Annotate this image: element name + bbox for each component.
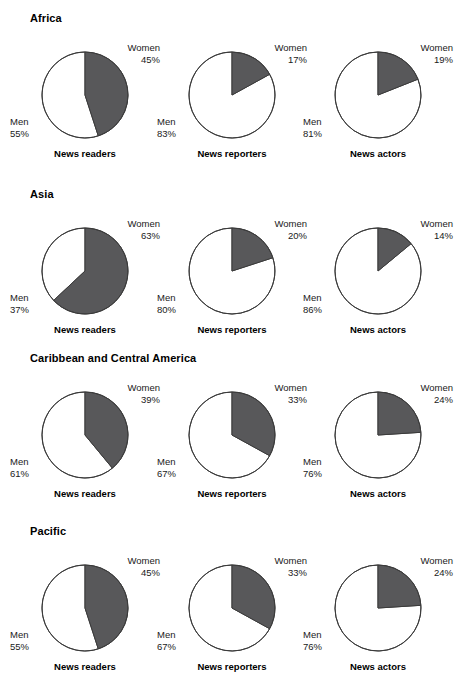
men-label-percent: 76% [303,641,343,653]
men-label-name: Men [157,629,175,640]
men-label: Men81% [303,116,343,139]
pie-caption: News reporters [153,148,311,159]
women-label-percent: 14% [395,230,453,242]
pie-caption: News actors [299,324,457,335]
men-label: Men55% [10,629,50,652]
women-label: Women45% [102,555,160,578]
region-title: Pacific [30,525,66,537]
men-label: Men55% [10,116,50,139]
men-label: Men76% [303,456,343,479]
pie-chart-cell: Women39%Men61%News readers [6,368,164,518]
women-label-percent: 24% [395,567,453,579]
pie-caption: News reporters [153,488,311,499]
men-label: Men76% [303,629,343,652]
men-label-name: Men [303,456,321,467]
pie-chart-cell: Women45%Men55%News readers [6,541,164,691]
pie-caption: News readers [6,148,164,159]
pie-caption: News readers [6,324,164,335]
men-label: Men61% [10,456,50,479]
men-label: Men80% [157,292,197,315]
pie-chart-cell: Women24%Men76%News actors [299,541,457,691]
men-label: Men37% [10,292,50,315]
pie-caption: News actors [299,661,457,672]
men-label-name: Men [10,292,28,303]
men-label-percent: 55% [10,641,50,653]
men-label-percent: 80% [157,304,197,316]
region-group: PacificWomen45%Men55%News readersWomen33… [0,525,473,695]
pie-chart-cell: Women63%Men37%News readers [6,204,164,354]
pie-caption: News actors [299,488,457,499]
men-label-percent: 67% [157,468,197,480]
men-label: Men67% [157,456,197,479]
men-label: Men67% [157,629,197,652]
men-label-percent: 67% [157,641,197,653]
pie-chart-cell: Women17%Men83%News reporters [153,28,311,178]
women-label-percent: 19% [395,54,453,66]
region-title: Africa [30,12,62,24]
pie-chart-cell: Women33%Men67%News reporters [153,541,311,691]
women-label: Women19% [395,42,453,65]
women-label-name: Women [420,555,453,566]
pie-chart-cell: Women45%Men55%News readers [6,28,164,178]
women-label-percent: 45% [102,54,160,66]
men-label-name: Men [157,456,175,467]
men-label-percent: 37% [10,304,50,316]
men-label: Men86% [303,292,343,315]
pie-caption: News reporters [153,324,311,335]
women-label: Women63% [102,218,160,241]
region-group: AfricaWomen45%Men55%News readersWomen17%… [0,12,473,182]
women-label-name: Women [420,218,453,229]
men-label-percent: 81% [303,128,343,140]
men-label-name: Men [303,629,321,640]
men-label-name: Men [157,116,175,127]
men-label-name: Men [303,116,321,127]
men-label-percent: 61% [10,468,50,480]
pie-chart-cell: Women24%Men76%News actors [299,368,457,518]
women-label: Women24% [395,555,453,578]
women-label: Women39% [102,382,160,405]
men-label-percent: 83% [157,128,197,140]
men-label-name: Men [10,116,28,127]
women-label-percent: 45% [102,567,160,579]
women-label-name: Women [420,382,453,393]
women-label-percent: 39% [102,394,160,406]
region-group: Caribbean and Central AmericaWomen39%Men… [0,352,473,522]
men-label-percent: 55% [10,128,50,140]
pie-chart-cell: Women20%Men80%News reporters [153,204,311,354]
pie-caption: News reporters [153,661,311,672]
region-group: AsiaWomen63%Men37%News readersWomen20%Me… [0,188,473,358]
men-label-name: Men [157,292,175,303]
men-label-percent: 76% [303,468,343,480]
women-label-name: Women [420,42,453,53]
pie-caption: News actors [299,148,457,159]
pie-chart-cell: Women33%Men67%News reporters [153,368,311,518]
men-label-percent: 86% [303,304,343,316]
men-label-name: Men [10,456,28,467]
women-label: Women45% [102,42,160,65]
region-title: Asia [30,188,54,200]
women-label: Women24% [395,382,453,405]
pie-caption: News readers [6,661,164,672]
pie-chart-cell: Women14%Men86%News actors [299,204,457,354]
region-title: Caribbean and Central America [30,352,196,364]
pie-caption: News readers [6,488,164,499]
men-label-name: Men [10,629,28,640]
women-label-percent: 24% [395,394,453,406]
women-label-percent: 63% [102,230,160,242]
men-label: Men83% [157,116,197,139]
pie-chart-cell: Women19%Men81%News actors [299,28,457,178]
men-label-name: Men [303,292,321,303]
women-label: Women14% [395,218,453,241]
